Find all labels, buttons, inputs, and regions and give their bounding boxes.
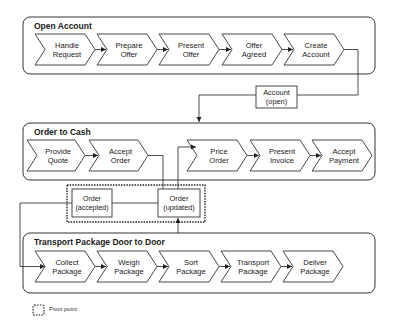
step-label-accept-order: AcceptOrder [98, 140, 143, 171]
container-title-transport-package: Transport Package Door to Door [34, 237, 165, 247]
legend-pivot-icon [33, 305, 44, 315]
step-label-offer-agreed: OfferAgreed [231, 34, 277, 65]
step-label-present-offer: PresentOffer [168, 34, 214, 65]
step-label-deliver-package: DeliverPackage [292, 251, 338, 282]
step-label-accept-payment: AcceptPayment [321, 140, 367, 171]
step-label-create-account: CreateAccount [293, 34, 339, 65]
step-label-handle-request: HandleRequest [44, 34, 90, 65]
container-title-order-to-cash: Order to Cash [34, 127, 91, 137]
object-label-account-open: Account(open) [256, 86, 297, 108]
step-label-collect-package: CollectPackage [44, 251, 90, 282]
object-label-order-accepted: Order(accepted) [72, 189, 112, 217]
step-label-present-invoice: PresentInvoice [259, 140, 305, 171]
container-title-open-account: Open Account [34, 21, 92, 31]
step-label-weigh-package: WeighPackage [106, 251, 152, 282]
step-label-prepare-offer: PrepareOffer [106, 34, 152, 65]
step-label-transport-package: TransportPackage [230, 251, 276, 282]
object-label-order-updated: Order(updated) [158, 189, 200, 217]
step-label-sort-package: SortPackage [168, 251, 214, 282]
legend-label-pivot-point: Pivot point [49, 306, 77, 312]
step-label-provide-quote: ProvideQuote [36, 140, 80, 171]
step-label-price-order: PriceOrder [196, 140, 242, 171]
